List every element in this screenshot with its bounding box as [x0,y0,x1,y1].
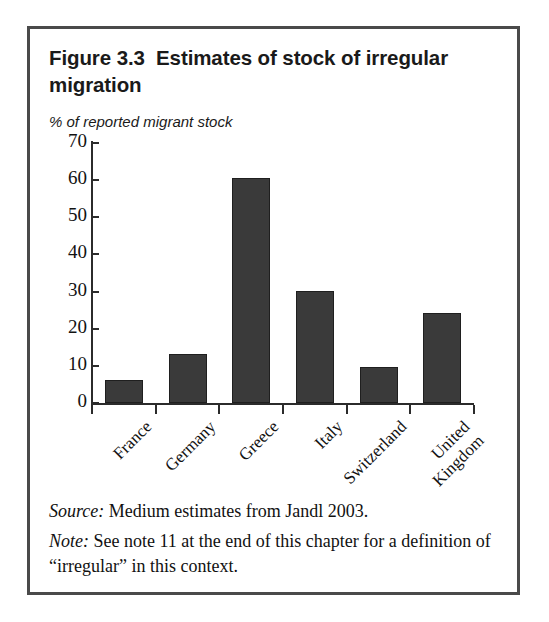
x-axis-tick [409,405,411,414]
x-axis-tick [473,405,475,414]
note-label: Note: [49,531,89,551]
y-axis-tick-label: 20 [39,316,87,338]
y-axis-tick [91,142,99,144]
x-axis-tick [155,405,157,414]
y-axis-tick-label: 10 [39,353,87,375]
x-axis-tick-label: Greece [156,417,283,544]
note-text: See note 11 at the end of this chapter f… [49,531,491,576]
y-axis-tick-label: 60 [39,167,87,189]
x-axis-tick-label: Germany [92,417,219,544]
bar [105,380,143,403]
source-text: Medium estimates from Jandl 2003. [104,501,368,521]
y-axis-tick-label: 70 [39,130,87,152]
bar [169,354,207,403]
y-axis-tick-label: 30 [39,279,87,301]
y-axis-tick [91,253,99,255]
y-axis-tick [91,216,99,218]
bar [423,313,461,403]
y-axis-tick-label: 0 [39,390,87,412]
bar [296,291,334,403]
y-axis-tick-label: 50 [39,204,87,226]
explanatory-note: Note: See note 11 at the end of this cha… [49,529,507,579]
source-label: Source: [49,501,104,521]
y-axis-tick [91,179,99,181]
source-note: Source: Medium estimates from Jandl 2003… [49,499,504,524]
y-axis-tick [91,365,99,367]
x-axis-tick [346,405,348,414]
x-axis-tick [218,405,220,414]
bar [360,367,398,403]
x-axis-tick [91,405,93,414]
x-axis-tick-label: Italy [220,417,347,544]
y-axis-tick [91,328,99,330]
y-axis-tick-label: 40 [39,241,87,263]
figure-frame: Figure 3.3 Estimates of stock of irregul… [27,26,520,595]
y-axis-tick [91,402,99,404]
y-axis-tick [91,291,99,293]
x-axis-tick [282,405,284,414]
bar [232,178,270,403]
